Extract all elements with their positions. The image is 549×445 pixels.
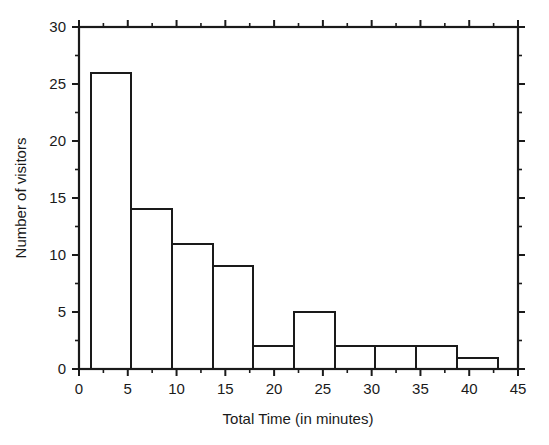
histogram-figure: 051015202530354045 051015202530 Total Ti… xyxy=(0,0,549,445)
chart-background xyxy=(0,0,549,445)
x-tick-label: 10 xyxy=(168,380,185,397)
y-tick-label: 10 xyxy=(49,246,66,263)
x-axis-title: Total Time (in minutes) xyxy=(223,410,374,427)
chart-canvas: 051015202530354045 051015202530 Total Ti… xyxy=(0,0,549,445)
x-tick-label: 40 xyxy=(461,380,478,397)
x-tick-label: 45 xyxy=(510,380,527,397)
x-tick-label: 5 xyxy=(124,380,132,397)
y-tick-label: 30 xyxy=(49,18,66,35)
y-tick-label: 25 xyxy=(49,75,66,92)
y-tick-label: 15 xyxy=(49,189,66,206)
x-tick-label: 15 xyxy=(217,380,234,397)
x-tick-label: 30 xyxy=(363,380,380,397)
y-tick-label: 5 xyxy=(58,303,66,320)
x-tick-label: 35 xyxy=(412,380,429,397)
y-tick-label: 0 xyxy=(58,360,66,377)
x-tick-label: 25 xyxy=(315,380,332,397)
x-tick-label: 20 xyxy=(266,380,283,397)
x-tick-label: 0 xyxy=(75,380,83,397)
y-tick-label: 20 xyxy=(49,132,66,149)
y-axis-title: Number of visitors xyxy=(12,138,29,259)
